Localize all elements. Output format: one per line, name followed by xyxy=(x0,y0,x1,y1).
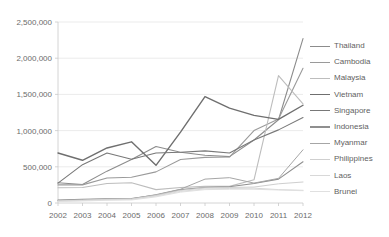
legend-item-philippines[interactable]: Philippines xyxy=(310,151,389,167)
x-tick-label: 2006 xyxy=(147,211,165,220)
legend-swatch-icon xyxy=(310,46,330,47)
legend-item-singapore[interactable]: Singapore xyxy=(310,103,389,119)
y-tick-label: 1,000,000 xyxy=(16,127,52,136)
legend-swatch-icon xyxy=(310,78,330,79)
legend-item-laos[interactable]: Laos xyxy=(310,168,389,184)
axis-lines xyxy=(58,22,303,203)
legend-item-label: Philippines xyxy=(334,155,373,163)
x-tick-label: 2004 xyxy=(98,211,116,220)
y-tick-label: 2,500,000 xyxy=(16,18,52,27)
series-lines xyxy=(58,39,303,202)
legend-item-label: Indonesia xyxy=(334,123,369,131)
x-tick-label: 2008 xyxy=(196,211,214,220)
plot-area: 0500,0001,000,0001,500,0002,000,0002,500… xyxy=(0,0,320,237)
series-line-thailand xyxy=(58,39,303,185)
legend-swatch-icon xyxy=(310,159,330,160)
gridlines xyxy=(58,22,303,167)
legend-item-myanmar[interactable]: Myanmar xyxy=(310,135,389,151)
legend-item-label: Vietnam xyxy=(334,91,363,99)
line-chart: 0500,0001,000,0001,500,0002,000,0002,500… xyxy=(0,0,389,237)
y-tick-label: 1,500,000 xyxy=(16,90,52,99)
legend-swatch-icon xyxy=(310,191,330,192)
legend-item-label: Thailand xyxy=(334,42,365,50)
legend-item-cambodia[interactable]: Cambodia xyxy=(310,54,389,70)
legend-item-brunei[interactable]: Brunei xyxy=(310,184,389,200)
y-tick-label: 500,000 xyxy=(23,163,52,172)
x-tick-label: 2012 xyxy=(294,211,312,220)
legend-swatch-icon xyxy=(310,175,330,176)
x-tick-label: 2003 xyxy=(74,211,92,220)
x-tick-label: 2009 xyxy=(221,211,239,220)
series-line-vietnam xyxy=(58,97,303,166)
legend-swatch-icon xyxy=(310,110,330,111)
legend-swatch-icon xyxy=(310,143,330,144)
legend-item-malaysia[interactable]: Malaysia xyxy=(310,70,389,86)
legend-swatch-icon xyxy=(310,62,330,63)
chart-legend: ThailandCambodiaMalaysiaVietnamSingapore… xyxy=(310,38,389,200)
legend-swatch-icon xyxy=(310,126,330,127)
legend-item-vietnam[interactable]: Vietnam xyxy=(310,87,389,103)
legend-item-label: Brunei xyxy=(334,188,357,196)
x-axis-ticks: 2002200320042005200620072008200920102011… xyxy=(49,203,312,220)
legend-item-label: Malaysia xyxy=(334,74,366,82)
x-tick-label: 2005 xyxy=(123,211,141,220)
legend-item-label: Singapore xyxy=(334,107,370,115)
x-tick-label: 2007 xyxy=(172,211,190,220)
legend-item-label: Cambodia xyxy=(334,58,370,66)
x-tick-label: 2010 xyxy=(245,211,263,220)
series-line-myanmar xyxy=(58,150,303,201)
y-axis-ticks: 0500,0001,000,0001,500,0002,000,0002,500… xyxy=(16,18,58,208)
y-tick-label: 2,000,000 xyxy=(16,54,52,63)
x-tick-label: 2011 xyxy=(270,211,288,220)
legend-item-indonesia[interactable]: Indonesia xyxy=(310,119,389,135)
y-tick-label: 0 xyxy=(48,199,53,208)
legend-item-thailand[interactable]: Thailand xyxy=(310,38,389,54)
chart-canvas: 0500,0001,000,0001,500,0002,000,0002,500… xyxy=(0,0,320,237)
x-tick-label: 2002 xyxy=(49,211,67,220)
legend-item-label: Myanmar xyxy=(334,139,367,147)
legend-swatch-icon xyxy=(310,94,330,95)
legend-item-label: Laos xyxy=(334,172,351,180)
